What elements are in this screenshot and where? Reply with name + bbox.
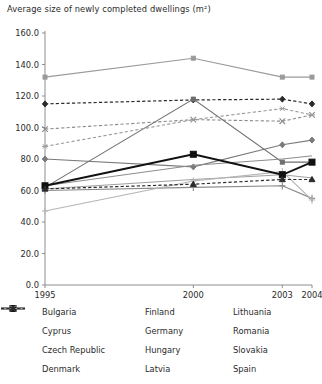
- y-tick-label: 100.0: [15, 123, 39, 133]
- legend-label: Denmark: [42, 364, 80, 375]
- y-tick-label: 140.0: [15, 60, 39, 70]
- legend-item-germany[interactable]: Germany: [145, 322, 233, 341]
- legend-item-bulgaria[interactable]: Bulgaria: [42, 303, 145, 322]
- data-point: [190, 151, 196, 157]
- data-point: [279, 182, 285, 189]
- chart-plot-area: 0.020.040.060.080.0100.0120.0140.0160.01…: [0, 0, 322, 305]
- legend-item-finland[interactable]: Finland: [145, 303, 233, 322]
- legend-item-hungary[interactable]: Hungary: [145, 341, 233, 360]
- y-tick-label: 60.0: [21, 186, 39, 196]
- series-line: [45, 99, 312, 187]
- legend-label: Slovakia: [233, 345, 268, 356]
- legend-item-latvia[interactable]: Latvia: [145, 360, 233, 379]
- y-tick-label: 160.0: [15, 28, 39, 38]
- data-point: [280, 160, 284, 164]
- data-point: [280, 142, 285, 148]
- data-point: [42, 156, 47, 162]
- data-point: [309, 137, 314, 143]
- data-point: [191, 97, 195, 101]
- legend-item-spain[interactable]: Spain: [233, 360, 321, 379]
- legend-label: Latvia: [145, 364, 170, 375]
- data-point: [42, 207, 48, 214]
- series-line: [45, 109, 312, 147]
- legend-label: Hungary: [145, 345, 180, 356]
- series-lithuania: [45, 156, 312, 186]
- data-point: [279, 106, 285, 110]
- data-point: [42, 101, 47, 107]
- data-point: [309, 159, 315, 165]
- legend-label: Czech Republic: [42, 345, 105, 356]
- legend-label: Germany: [145, 326, 183, 337]
- data-point: [310, 75, 314, 79]
- y-tick-label: 120.0: [15, 91, 39, 101]
- series-cyprus: [43, 56, 314, 79]
- series-czech-republic: [42, 96, 314, 107]
- x-tick-label: 2004: [301, 290, 322, 300]
- chart-legend: BulgariaFinlandLithuaniaCyprusGermanyRom…: [0, 303, 322, 384]
- legend-label: Lithuania: [233, 307, 271, 318]
- data-point: [10, 306, 16, 311]
- legend-item-lithuania[interactable]: Lithuania: [233, 303, 321, 322]
- legend-label: Romania: [233, 326, 269, 337]
- legend-label: Bulgaria: [42, 307, 76, 318]
- legend-item-czech-republic[interactable]: Czech Republic: [42, 341, 145, 360]
- y-tick-label: 20.0: [21, 249, 39, 259]
- series-line: [45, 140, 312, 167]
- legend-label: Cyprus: [42, 326, 71, 337]
- legend-item-romania[interactable]: Romania: [233, 322, 321, 341]
- x-tick-label: 2000: [183, 290, 204, 300]
- data-point: [309, 113, 315, 117]
- data-point: [280, 96, 285, 102]
- y-tick-label: 0.0: [26, 280, 39, 290]
- series-germany: [42, 106, 315, 148]
- series-line: [45, 99, 312, 104]
- y-tick-label: 40.0: [21, 217, 39, 227]
- legend-item-slovakia[interactable]: Slovakia: [233, 341, 321, 360]
- series-hungary: [42, 182, 315, 202]
- data-point: [309, 101, 314, 107]
- series-line: [45, 156, 312, 186]
- data-point: [43, 75, 47, 79]
- legend-item-cyprus[interactable]: Cyprus: [42, 322, 145, 341]
- legend-item-denmark[interactable]: Denmark: [42, 360, 145, 379]
- chart-container: Average size of newly completed dwelling…: [0, 0, 322, 384]
- legend-label: Spain: [233, 364, 256, 375]
- data-point: [280, 75, 284, 79]
- x-tick-label: 1995: [34, 290, 55, 300]
- y-tick-label: 80.0: [21, 154, 39, 164]
- data-point: [191, 56, 195, 60]
- legend-label: Finland: [145, 307, 175, 318]
- series-line: [45, 154, 312, 186]
- data-point: [190, 117, 196, 121]
- legend-swatch-spain-icon: [0, 303, 26, 314]
- series-line: [45, 58, 312, 77]
- x-tick-label: 2003: [272, 290, 293, 300]
